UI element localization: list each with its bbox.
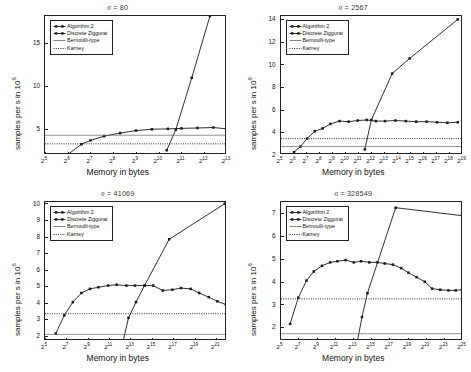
legend-key-line-markers <box>53 209 66 216</box>
series-marker <box>97 286 100 289</box>
legend-label: Karney <box>302 231 320 238</box>
x-axis-tick-label: 212 <box>366 156 374 164</box>
series-line-algorithm-2 <box>294 120 458 152</box>
x-axis-label: Memory in bytes <box>236 353 471 363</box>
legend-item[interactable]: Discrete Ziggurat <box>53 216 109 223</box>
subplot-title: σ = 41069 <box>0 189 236 198</box>
x-axis-tick-label: 215 <box>147 342 155 350</box>
series-marker <box>460 214 461 217</box>
series-marker <box>209 15 212 17</box>
legend-item[interactable]: Bernoulli-type <box>289 223 345 230</box>
y-axis-tick-label: 8 <box>0 232 40 239</box>
legend-item[interactable]: Karney <box>289 45 345 52</box>
x-axis-tick-label: 216 <box>418 156 426 164</box>
series-marker <box>404 120 407 123</box>
series-marker <box>171 288 174 291</box>
legend-label: Algorithm 2 <box>66 23 94 30</box>
legend-item[interactable]: Algorithm 2 <box>53 209 109 216</box>
legend-label: Discrete Ziggurat <box>302 216 343 223</box>
x-axis-tick-label: 217 <box>431 156 439 164</box>
y-axis-label-exponent: 106 <box>13 263 22 275</box>
x-axis-tick-label: 27 <box>303 156 309 164</box>
x-axis-tick-label: 25 <box>41 156 47 164</box>
series-marker <box>356 119 359 122</box>
legend-item[interactable]: Karney <box>53 231 109 238</box>
title-value: 80 <box>120 3 128 12</box>
legend-key-solid-thin <box>289 37 302 44</box>
series-marker <box>383 262 386 265</box>
x-axis-tick-label: 212 <box>199 156 207 164</box>
legend-item[interactable]: Bernoulli-type <box>289 37 345 44</box>
legend-label: Karney <box>66 231 84 238</box>
series-marker <box>225 303 226 306</box>
y-axis-label-exponent: 106 <box>248 77 257 89</box>
series-marker <box>224 202 226 205</box>
x-axis-tick-label: 211 <box>176 156 184 164</box>
series-marker <box>175 128 178 131</box>
subplot-top-right: σ = 256724681012142526272829210211212213… <box>236 0 471 186</box>
x-axis-tick-label: 217 <box>168 342 176 350</box>
x-axis-tick-label: 29 <box>313 342 319 350</box>
legend-item[interactable]: Bernoulli-type <box>53 37 109 44</box>
legend: Algorithm 2Discrete ZigguratBernoulli-ty… <box>286 20 349 55</box>
y-axis-tick-label: 15 <box>0 39 40 46</box>
legend-item[interactable]: Algorithm 2 <box>289 209 345 216</box>
legend-key-dotted <box>53 231 66 238</box>
series-marker <box>460 288 461 291</box>
series-marker <box>446 122 449 125</box>
x-axis-tick-label: 215 <box>405 156 413 164</box>
series-line-algorithm-2 <box>290 260 462 324</box>
series-marker <box>143 284 146 287</box>
subplot-title: σ = 328549 <box>236 189 471 198</box>
legend-item[interactable]: Algorithm 2 <box>289 23 345 30</box>
series-marker <box>360 316 363 319</box>
legend-label: Algorithm 2 <box>302 209 330 216</box>
y-axis-label-text: samples per s in <box>248 92 257 150</box>
series-marker <box>127 317 130 320</box>
series-marker <box>370 119 373 122</box>
series-line-discrete-ziggurat <box>167 16 210 150</box>
series-marker <box>152 284 155 287</box>
legend-item[interactable]: Karney <box>53 45 109 52</box>
series-marker <box>125 284 128 287</box>
series-marker <box>134 284 137 287</box>
x-axis-tick-label: 26 <box>290 156 296 164</box>
legend-item[interactable]: Discrete Ziggurat <box>53 30 109 37</box>
legend-item[interactable]: Algorithm 2 <box>53 23 109 30</box>
x-axis-tick-label: 211 <box>330 342 338 350</box>
y-axis-tick-label: 14 <box>236 15 276 22</box>
series-marker <box>80 292 83 295</box>
x-axis-tick-label: 219 <box>190 342 198 350</box>
legend-key-line-markers <box>289 30 302 37</box>
series-marker <box>423 281 426 284</box>
series-marker <box>359 260 362 263</box>
series-marker <box>329 123 332 126</box>
series-marker <box>394 206 397 209</box>
legend-item[interactable]: Discrete Ziggurat <box>289 30 345 37</box>
series-marker <box>72 301 75 304</box>
y-axis-tick-label: 6 <box>236 232 276 239</box>
x-axis-tick-label: 29 <box>84 342 90 350</box>
y-axis-label: samples per s in 106 <box>247 263 258 336</box>
legend: Algorithm 2Discrete ZigguratBernoulli-ty… <box>286 206 349 241</box>
series-marker <box>135 301 138 304</box>
y-axis-tick-label: 7 <box>0 249 40 256</box>
series-marker <box>344 259 347 262</box>
legend-item[interactable]: Discrete Ziggurat <box>289 216 345 223</box>
series-marker <box>363 148 366 151</box>
y-axis-label-exponent: 106 <box>13 77 22 89</box>
series-marker <box>435 121 438 124</box>
sigma-symbol: σ <box>339 4 343 12</box>
series-marker <box>115 283 118 286</box>
series-marker <box>407 271 410 274</box>
title-value: 2567 <box>351 3 368 12</box>
series-marker <box>394 119 397 122</box>
legend-item[interactable]: Karney <box>289 231 345 238</box>
series-marker <box>89 288 92 291</box>
series-marker <box>198 292 201 295</box>
x-axis-tick-label: 214 <box>392 156 400 164</box>
y-axis-label-text: samples per s in <box>248 278 257 336</box>
legend-item[interactable]: Bernoulli-type <box>53 223 109 230</box>
x-axis-tick-label: 225 <box>457 342 465 350</box>
title-value: 328549 <box>347 189 372 198</box>
